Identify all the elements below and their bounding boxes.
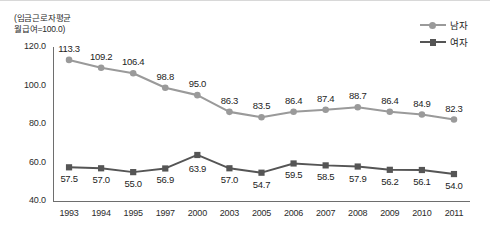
data-point-marker[interactable] [419, 167, 425, 173]
data-point-marker[interactable] [66, 164, 72, 170]
data-point-marker[interactable] [162, 165, 168, 171]
data-point-label: 106.4 [122, 56, 144, 67]
data-point-marker[interactable] [258, 170, 264, 176]
data-point-marker[interactable] [290, 160, 296, 166]
data-point-label: 56.1 [413, 176, 430, 187]
data-point-marker[interactable] [130, 70, 137, 77]
chart-container: (임금근로자평균 월급여=100.0) 남자 여자 40.060.080.010… [0, 0, 490, 231]
data-point-marker[interactable] [226, 165, 232, 171]
data-point-marker[interactable] [355, 163, 361, 169]
data-point-marker[interactable] [290, 108, 297, 115]
data-point-label: 86.3 [221, 95, 238, 106]
data-point-label: 86.4 [285, 95, 302, 106]
data-point-label: 57.9 [349, 173, 366, 184]
data-point-marker[interactable] [194, 152, 200, 158]
data-point-label: 55.0 [125, 178, 142, 189]
data-point-label: 83.5 [253, 100, 270, 111]
data-point-label: 113.3 [58, 43, 80, 54]
data-point-marker[interactable] [387, 167, 393, 173]
data-point-marker[interactable] [162, 85, 169, 92]
data-point-marker[interactable] [354, 104, 361, 111]
data-point-marker[interactable] [98, 64, 105, 71]
data-point-marker[interactable] [194, 92, 201, 99]
data-point-label: 95.0 [189, 78, 206, 89]
data-point-marker[interactable] [66, 57, 73, 64]
data-point-marker[interactable] [451, 171, 457, 177]
data-point-label: 54.7 [253, 179, 270, 190]
data-point-label: 86.4 [381, 95, 398, 106]
data-point-label: 87.4 [317, 93, 334, 104]
data-point-label: 82.3 [445, 103, 462, 114]
data-point-label: 88.7 [349, 90, 366, 101]
data-point-marker[interactable] [322, 106, 329, 113]
data-point-marker[interactable] [387, 108, 394, 115]
data-point-label: 109.2 [90, 51, 112, 62]
data-point-label: 57.0 [221, 174, 238, 185]
data-point-marker[interactable] [323, 162, 329, 168]
data-point-marker[interactable] [419, 111, 426, 118]
data-point-label: 56.9 [157, 174, 174, 185]
data-point-marker[interactable] [226, 109, 233, 116]
data-point-label: 56.2 [381, 176, 398, 187]
data-point-label: 57.5 [60, 173, 77, 184]
plot-area [0, 1, 490, 231]
data-point-marker[interactable] [258, 114, 265, 121]
data-point-label: 59.5 [285, 169, 302, 180]
data-point-label: 98.8 [157, 71, 174, 82]
data-point-label: 57.0 [92, 174, 109, 185]
data-point-label: 63.9 [189, 163, 206, 174]
data-point-marker[interactable] [98, 165, 104, 171]
data-point-marker[interactable] [451, 116, 458, 123]
data-point-label: 84.9 [413, 98, 430, 109]
data-point-label: 58.5 [317, 171, 334, 182]
data-point-marker[interactable] [130, 169, 136, 175]
data-point-label: 54.0 [445, 180, 462, 191]
